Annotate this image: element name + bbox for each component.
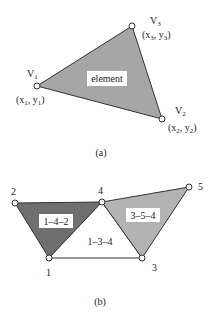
node-1-label: 1: [46, 267, 51, 278]
caption-b: (b): [94, 296, 106, 308]
panel-b: 1–4–2 1–3–4 3–5–4 1 2 3 4 5 (b): [11, 181, 203, 308]
vertex-v2-label: V2: [175, 105, 186, 118]
element-label-1-3-4: 1–3–4: [88, 236, 113, 247]
node-5-label: 5: [198, 181, 203, 192]
vertex-v3-coords: (x3, y3): [142, 29, 171, 42]
node-4-label: 4: [98, 185, 103, 196]
element-label-1-4-2: 1–4–2: [44, 216, 69, 227]
panel-a: element V1 (x1, y1) V2 (x2, y2) V3 (x3, …: [16, 15, 197, 159]
vertex-v1-label: V1: [27, 68, 38, 81]
node-2-marker: [12, 200, 18, 206]
vertex-v3-marker: [129, 23, 135, 29]
diagram-canvas: element V1 (x1, y1) V2 (x2, y2) V3 (x3, …: [0, 0, 214, 320]
caption-a: (a): [95, 147, 106, 159]
vertex-v2-marker: [159, 116, 165, 122]
element-label-3-5-4: 3–5–4: [131, 210, 156, 221]
vertex-v1-marker: [34, 83, 40, 89]
vertex-v1-coords: (x1, y1): [16, 94, 45, 107]
element-label: element: [91, 73, 123, 84]
node-3-label: 3: [152, 262, 157, 273]
node-3-marker: [139, 255, 145, 261]
node-5-marker: [186, 184, 192, 190]
node-4-marker: [99, 199, 105, 205]
node-2-label: 2: [11, 186, 16, 197]
node-1-marker: [46, 255, 52, 261]
vertex-v2-coords: (x2, y2): [168, 122, 197, 135]
vertex-v3-label: V3: [150, 15, 161, 28]
